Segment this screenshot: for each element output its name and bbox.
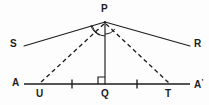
label-point-u: U — [36, 89, 43, 99]
label-ray-r: R — [194, 39, 201, 49]
geometry-figure: P S R A A' U Q T — [0, 0, 209, 105]
label-base-a-prime: A' — [194, 78, 204, 90]
segment-pu-dashed — [40, 24, 104, 83]
label-point-p: P — [101, 4, 108, 14]
label-point-q: Q — [101, 89, 109, 99]
ray-pr-line — [105, 22, 190, 46]
segment-pt-dashed — [106, 24, 169, 83]
label-base-a-prime-mark: ' — [201, 77, 203, 86]
vertex-point-p — [104, 21, 106, 23]
right-angle-marker — [98, 77, 105, 84]
label-ray-s: S — [10, 39, 17, 49]
label-base-a: A — [12, 78, 19, 88]
label-point-t: T — [165, 89, 171, 99]
